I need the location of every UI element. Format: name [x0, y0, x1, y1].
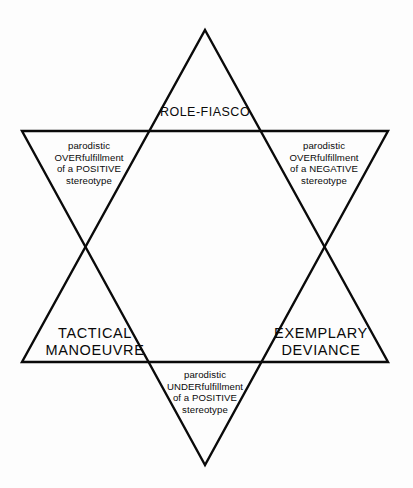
label-overfulfillment-negative: parodistic OVERfulfillment of a NEGATIVE…: [269, 140, 379, 187]
label-tactical-manoeuvre: TACTICAL MANOEUVRE: [32, 325, 158, 360]
label-underfulfillment-positive: parodistic UNDERfulfillment of a POSITIV…: [141, 369, 269, 416]
label-overfulfillment-positive: parodistic OVERfulfillment of a POSITIVE…: [34, 140, 144, 187]
label-exemplary-deviance: EXEMPLARY DEVIANCE: [255, 325, 387, 360]
label-role-fiasco: ROLE-FIASCO: [141, 105, 269, 119]
upward-triangle: [22, 30, 388, 362]
diagram-canvas: ROLE-FIASCO parodistic OVERfulfillment o…: [0, 0, 413, 488]
